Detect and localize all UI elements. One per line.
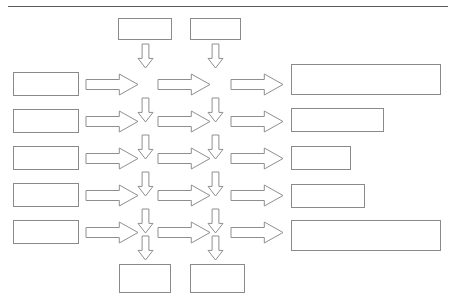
flow-arrow-down-10 — [208, 209, 223, 233]
flow-arrow-right-12 — [231, 185, 283, 206]
flow-arrow-right-10 — [86, 185, 138, 206]
flow-arrow-right-5 — [158, 111, 210, 132]
flow-arrow-down-6 — [208, 135, 223, 159]
flow-arrow-right-13 — [86, 222, 138, 243]
stakeholder-kunden — [13, 72, 79, 96]
process-output-fertiges-produkt — [119, 264, 171, 293]
outcome-exzellent — [291, 146, 351, 170]
process-input-idee — [118, 18, 172, 40]
flow-arrow-down-7 — [138, 172, 153, 196]
flow-arrow-down-4 — [208, 98, 223, 122]
flow-arrow-down-2 — [208, 44, 223, 68]
flow-arrow-right-7 — [86, 148, 138, 169]
flow-arrow-down-9 — [138, 209, 153, 233]
stakeholder-oeffentlichkeit — [13, 183, 79, 207]
process-output-rechnung-bezahlt — [190, 264, 245, 293]
flow-arrow-down-5 — [138, 135, 153, 159]
flow-arrow-right-8 — [158, 148, 210, 169]
flow-arrow-right-6 — [231, 111, 283, 132]
outcome-bestes-image — [291, 184, 365, 208]
outcome-begeistert-unser-unternehmen-ist-e — [291, 64, 441, 95]
flow-arrow-right-1 — [86, 74, 138, 95]
flow-arrow-down-3 — [138, 98, 153, 122]
flow-arrow-right-3 — [231, 74, 283, 95]
stakeholder-mitarbeiter — [13, 109, 79, 133]
flow-arrow-right-11 — [158, 185, 210, 206]
flow-arrow-right-9 — [231, 148, 283, 169]
header-divider — [8, 6, 448, 7]
flow-arrow-down-11 — [138, 236, 153, 260]
flow-arrow-down-12 — [208, 236, 223, 260]
flow-arrow-right-14 — [158, 222, 210, 243]
outcome-kreativ-engagiert — [291, 108, 384, 132]
flow-arrow-right-2 — [158, 74, 210, 95]
flow-arrow-down-8 — [208, 172, 223, 196]
flow-arrow-right-15 — [231, 222, 283, 243]
stakeholder-ergebnisse — [13, 220, 79, 244]
flow-arrow-right-4 — [86, 111, 138, 132]
flow-arrow-down-1 — [138, 44, 153, 68]
stakeholder-lieferanten — [13, 146, 79, 170]
diagram-canvas — [0, 0, 455, 303]
process-input-auftrag — [190, 18, 241, 40]
outcome-marktfuehrer-hervorragende-vermoeg — [291, 220, 441, 251]
